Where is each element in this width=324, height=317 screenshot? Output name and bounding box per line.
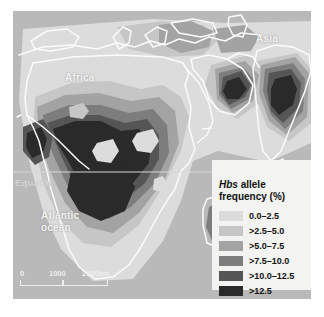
legend-label: >10.0–12.5 [249,271,294,281]
legend-label: 0.0–2.5 [249,211,279,221]
legend-title: Hbs allele frequency (%) [219,166,306,204]
legend-entry: >5.0–7.5 [219,239,306,254]
map-label-equator: Equator [15,177,52,188]
legend-swatch [219,286,243,296]
legend-swatch [219,241,243,251]
scale-bar-ruler [20,280,108,286]
legend-entry: 0.0–2.5 [219,209,306,224]
scale-bar-start-label: 0 [20,269,24,278]
map-label-africa: Africa [65,72,95,83]
legend-label: >7.5–10.0 [249,256,289,266]
legend-label: >2.5–5.0 [249,226,284,236]
map-label-atlantic-ocean: Atlantic ocean [41,210,79,234]
legend-entry: >12.5 [219,284,306,299]
map-plate: Africa Asia Atlantic ocean Equator 0 100… [13,11,311,299]
legend-title-gene: Hbs [219,179,238,190]
legend-swatch [219,256,243,266]
legend-entry: >7.5–10.0 [219,254,306,269]
figure-root: Africa Asia Atlantic ocean Equator 0 100… [0,0,324,317]
scale-bar-end-label: 2000km [82,269,110,278]
legend-panel: Hbs allele frequency (%) 0.0–2.5>2.5–5.0… [212,160,311,290]
legend-entry: >2.5–5.0 [219,224,306,239]
scale-bar: 0 1000 2000km [20,269,116,293]
legend-label: >5.0–7.5 [249,241,284,251]
legend-swatch [219,271,243,281]
coastline-socotra [203,128,211,129]
scale-bar-mid-tick [62,280,64,285]
scale-bar-mid-label: 1000 [49,269,66,278]
map-label-asia: Asia [256,33,278,44]
legend-label: >12.5 [249,286,272,296]
legend-entry: >10.0–12.5 [219,269,306,284]
legend-swatch [219,226,243,236]
legend-entry-list: 0.0–2.5>2.5–5.0>5.0–7.5>7.5–10.0>10.0–12… [219,209,306,299]
legend-swatch [219,211,243,221]
